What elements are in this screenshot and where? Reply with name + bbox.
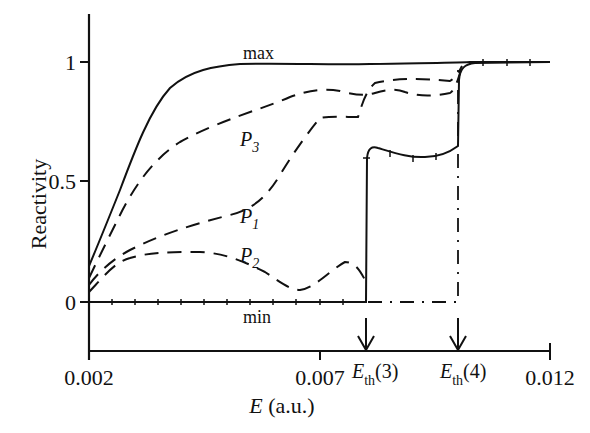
series-max — [89, 62, 550, 266]
x-axis-label: E (a.u.) — [248, 393, 314, 418]
reactivity-chart: 1 0.5 0 0.002 0.007 0.012 Reactivity E (… — [0, 0, 590, 433]
y-tick-label-1: 1 — [65, 50, 76, 75]
label-p1: P1 — [239, 205, 259, 232]
threshold-guide-line — [368, 70, 458, 302]
min-series-markers — [89, 59, 530, 306]
label-min: min — [243, 307, 271, 327]
x-tick-label-0.007: 0.007 — [295, 365, 345, 390]
label-max: max — [243, 43, 274, 63]
series-p3 — [89, 66, 462, 278]
label-eth3: Eth(3) — [351, 360, 398, 388]
series-min — [89, 62, 550, 302]
label-eth4: Eth(4) — [439, 360, 486, 388]
label-p3: P3 — [239, 128, 259, 155]
series-p2 — [89, 252, 366, 292]
y-tick-label-0: 0 — [65, 290, 76, 315]
label-p2: P2 — [239, 244, 259, 271]
y-tick-label-0.5: 0.5 — [49, 169, 77, 194]
x-axis-label-unit: (a.u.) — [263, 393, 315, 418]
x-axis-label-var: E — [248, 393, 263, 418]
x-tick-label-0.002: 0.002 — [64, 365, 114, 390]
y-axis-label: Reactivity — [26, 159, 51, 249]
x-tick-label-0.012: 0.012 — [525, 365, 575, 390]
